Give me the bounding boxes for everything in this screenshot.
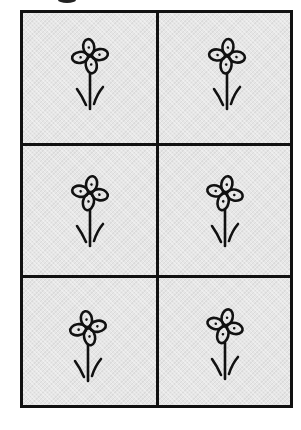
petal-dot: [89, 63, 92, 66]
flower-icon: [190, 302, 260, 382]
petal-dot: [214, 322, 217, 325]
worksheet-figure: [0, 0, 301, 430]
leaf-right: [94, 224, 103, 241]
petal-dot: [95, 324, 98, 327]
petal-dot: [97, 193, 100, 196]
leaf-left: [212, 226, 221, 242]
leaf-left: [77, 226, 86, 242]
petal-dot: [79, 189, 82, 192]
petal-dot: [235, 56, 238, 59]
cropped-text-fragment: [58, 0, 76, 3]
petal-dot: [225, 183, 228, 186]
petal-dot: [97, 53, 100, 56]
petal-dot: [221, 199, 224, 202]
flower-head: [203, 305, 246, 347]
grid-cell-r2-c1: [23, 146, 159, 278]
petal-dot: [226, 46, 229, 49]
flower-head: [207, 37, 246, 75]
petal-dot: [79, 56, 82, 59]
leaf-right: [231, 87, 240, 104]
flower-icon: [55, 302, 125, 382]
leaf-left: [212, 359, 221, 375]
petal-dot: [89, 183, 92, 186]
flower-icon: [190, 171, 260, 251]
grid-cell-r1-c2: [159, 13, 290, 146]
petal-dot: [216, 54, 219, 57]
petal-dot: [87, 334, 90, 337]
petal-dot: [225, 316, 228, 319]
flower-grid: [20, 10, 293, 408]
leaf-right: [92, 359, 101, 376]
petal-dot: [232, 193, 235, 196]
leaf-right: [229, 357, 238, 374]
flower-head: [69, 173, 110, 213]
petal-dot: [87, 46, 90, 49]
flower-head: [67, 308, 108, 348]
petal-dot: [87, 199, 90, 202]
flower-head: [69, 37, 109, 76]
leaf-left: [77, 89, 86, 105]
flower-icon: [55, 171, 125, 251]
leaf-left: [214, 89, 223, 105]
grid-cell-r2-c2: [159, 146, 290, 278]
petal-dot: [221, 332, 224, 335]
grid-cell-r3-c1: [23, 278, 159, 405]
petal-dot: [214, 189, 217, 192]
flower-icon: [190, 38, 260, 118]
leaf-right: [94, 87, 103, 104]
flower-icon: [55, 38, 125, 118]
flower-head: [203, 172, 245, 213]
leaf-right: [229, 224, 238, 241]
petal-dot: [77, 328, 80, 331]
grid-cell-r1-c1: [23, 13, 159, 146]
leaf-left: [75, 361, 84, 377]
petal-dot: [224, 63, 227, 66]
petal-dot: [85, 318, 88, 321]
grid-cell-r3-c2: [159, 278, 290, 405]
petal-dot: [232, 326, 235, 329]
